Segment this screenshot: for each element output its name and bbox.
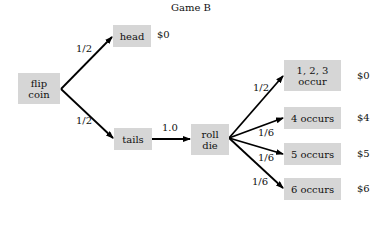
edge-label-tails-roll: 1.0 (162, 122, 178, 133)
payoff-head: $0 (157, 29, 170, 40)
node-flip-coin: flip coin (18, 73, 60, 104)
node-head-label: head (120, 31, 145, 42)
node-outcome-5: 5 occurs (284, 143, 341, 165)
node-outcome-123-line2: occur (298, 76, 326, 87)
node-head: head (113, 25, 151, 47)
node-outcome-6: 6 occurs (284, 178, 341, 200)
edge-label-roll-123: 1/2 (253, 82, 269, 93)
payoff-5: $5 (357, 148, 370, 159)
node-tails-label: tails (122, 134, 144, 145)
edge-label-roll-5: 1/6 (258, 152, 274, 163)
node-outcome-6-label: 6 occurs (291, 184, 334, 195)
edge-flip-tails (61, 89, 113, 138)
edge-label-flip-tails: 1/2 (76, 115, 92, 126)
node-tails: tails (114, 128, 152, 150)
node-flip-coin-line1: flip (31, 78, 47, 89)
edge-label-roll-6: 1/6 (252, 176, 268, 187)
payoff-123: $0 (357, 70, 370, 81)
edge-label-flip-head: 1/2 (76, 43, 92, 54)
node-outcome-123: 1, 2, 3 occur (284, 60, 341, 91)
node-outcome-4: 4 occurs (284, 107, 341, 129)
node-outcome-4-label: 4 occurs (291, 113, 334, 124)
node-roll-die-line2: die (202, 140, 218, 151)
node-outcome-123-line1: 1, 2, 3 (297, 65, 329, 76)
node-outcome-5-label: 5 occurs (291, 149, 334, 160)
edge-label-roll-4: 1/6 (258, 127, 274, 138)
payoff-6: $6 (357, 183, 370, 194)
node-roll-die-line1: roll (201, 129, 218, 140)
node-flip-coin-line2: coin (28, 89, 49, 100)
payoff-4: $4 (357, 112, 370, 123)
node-roll-die: roll die (191, 124, 229, 155)
